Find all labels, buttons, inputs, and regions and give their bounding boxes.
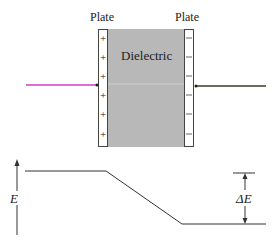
positive-charge: +: [100, 89, 106, 101]
right-wire-terminal: [195, 85, 198, 88]
positive-charge: +: [100, 32, 106, 44]
right-plate-label: Plate: [175, 10, 199, 24]
left-wire-terminal: [96, 84, 99, 87]
positive-charge: +: [100, 128, 106, 140]
capacitor-diagram: Plate Plate Dielectric + + + + + + E ΔE: [0, 0, 280, 244]
arrow-down-icon: [243, 218, 248, 224]
dielectric-block: [108, 29, 184, 147]
dielectric-label: Dielectric: [121, 48, 172, 63]
positive-charge: +: [100, 108, 106, 120]
left-plate-label: Plate: [90, 10, 114, 24]
energy-profile-line: [25, 171, 266, 224]
positive-charge: +: [100, 70, 106, 82]
positive-charge: +: [100, 51, 106, 63]
right-plate: [185, 30, 194, 147]
arrow-up-icon: [15, 159, 20, 166]
delta-e-label: ΔE: [235, 191, 252, 206]
arrow-up-icon: [243, 173, 248, 179]
energy-axis-label: E: [9, 191, 18, 206]
